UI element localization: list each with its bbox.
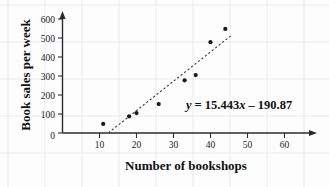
data-point (157, 102, 161, 106)
data-point (101, 122, 105, 126)
equation-x-variable: x (238, 98, 245, 112)
chart-figure: 600 500 400 300 200 100 0 10 20 30 40 50… (0, 0, 329, 187)
x-tick-label-30: 30 (169, 140, 179, 150)
x-tick-label-60: 60 (280, 140, 290, 150)
x-tick-label-10: 10 (95, 140, 105, 150)
y-tick-label-0: 0 (50, 131, 55, 141)
y-axis-title: Book sales per week (18, 19, 33, 131)
data-point (134, 111, 138, 115)
data-point (208, 40, 212, 44)
x-axis-tick-labels: 10 20 30 40 50 60 (95, 140, 290, 150)
x-axis-ticks (100, 133, 285, 138)
x-tick-label-50: 50 (243, 140, 253, 150)
regression-equation-annotation: y= 15.443x– 190.87 (184, 98, 292, 112)
y-tick-label-400: 400 (41, 53, 56, 63)
equation-y-variable: y (184, 98, 192, 112)
data-point (223, 27, 227, 31)
x-axis (63, 130, 318, 136)
equation-tail: – 190.87 (247, 98, 292, 112)
data-point (127, 114, 131, 118)
y-tick-label-300: 300 (41, 72, 56, 82)
data-point (194, 73, 198, 77)
x-axis-title: Number of bookshops (125, 158, 247, 173)
scatter-plot: 600 500 400 300 200 100 0 10 20 30 40 50… (0, 0, 329, 187)
x-tick-label-40: 40 (206, 140, 216, 150)
y-tick-label-600: 600 (41, 15, 56, 25)
y-axis (59, 11, 65, 133)
y-tick-label-500: 500 (41, 34, 56, 44)
y-tick-label-100: 100 (41, 110, 56, 120)
equation-body: = 15.443 (195, 98, 240, 112)
data-point (183, 78, 187, 82)
y-tick-label-200: 200 (41, 91, 56, 101)
trendline-dashed (108, 36, 230, 133)
x-tick-label-20: 20 (132, 140, 142, 150)
y-axis-tick-labels: 600 500 400 300 200 100 0 (41, 15, 56, 142)
